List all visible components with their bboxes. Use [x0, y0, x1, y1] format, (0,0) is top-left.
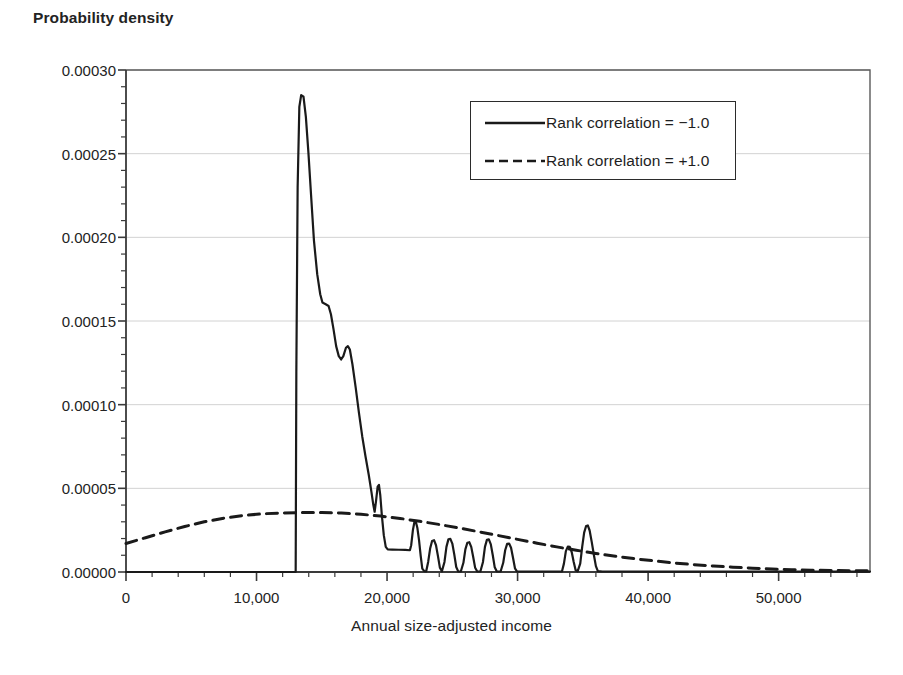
- legend-label-1: Rank correlation = +1.0: [546, 152, 709, 170]
- y-tick-label: 0.00025: [18, 145, 116, 162]
- legend-label-0: Rank correlation = −1.0: [546, 114, 709, 132]
- x-tick-label: 10,000: [234, 589, 280, 606]
- chart-figure: Probability density Annual size-adjusted…: [0, 0, 903, 675]
- plot-canvas: [0, 0, 903, 675]
- x-tick-label: 40,000: [625, 589, 671, 606]
- x-tick-label: 30,000: [495, 589, 541, 606]
- x-axis-label: Annual size-adjusted income: [0, 617, 903, 635]
- y-tick-label: 0.00020: [18, 229, 116, 246]
- legend-swatch-dashed-icon: [484, 154, 546, 168]
- x-tick-label: 0: [122, 589, 130, 606]
- legend-item-0: Rank correlation = −1.0: [471, 103, 735, 142]
- x-tick-label: 50,000: [756, 589, 802, 606]
- y-tick-label: 0.00005: [18, 480, 116, 497]
- y-tick-label: 0.00015: [18, 313, 116, 330]
- legend-item-1: Rank correlation = +1.0: [471, 141, 735, 180]
- legend: Rank correlation = −1.0 Rank correlation…: [470, 101, 736, 180]
- y-tick-label: 0.00010: [18, 396, 116, 413]
- y-axis-label: Probability density: [33, 9, 174, 27]
- y-tick-label: 0.00000: [18, 564, 116, 581]
- y-tick-label: 0.00030: [18, 62, 116, 79]
- x-tick-label: 20,000: [364, 589, 410, 606]
- legend-swatch-solid-icon: [484, 116, 546, 130]
- series-line-1: [126, 513, 870, 571]
